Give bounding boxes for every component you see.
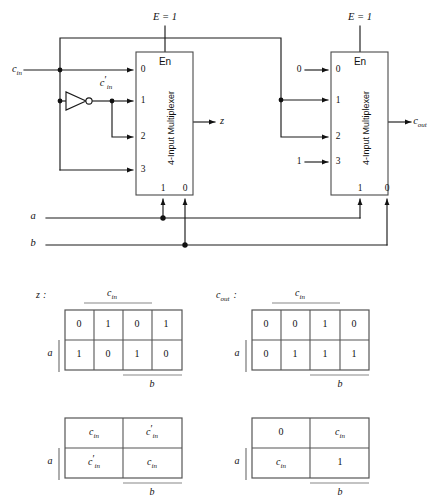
mux-left[interactable]: En 0 1 2 3 4-Input Multiplexer 1 0 — [136, 52, 193, 195]
label-a-bus: a — [30, 210, 35, 221]
mux-right-port-0: 0 — [336, 64, 341, 74]
junction-dot-a — [160, 215, 165, 220]
kmap-cout-reduced: 0 cin cin 1 a b — [235, 418, 370, 497]
mux-left-select-0: 0 — [183, 183, 188, 193]
label-b-bus: b — [30, 237, 35, 248]
mux-left-name: 4-Input Multiplexer — [166, 91, 176, 165]
junction-dot-right-bus — [279, 98, 284, 103]
kmap-cout-cell-r1c0: 0 — [264, 348, 269, 359]
circuit-and-kmap-figure: En 0 1 2 3 4-Input Multiplexer 1 0 En 0 … — [0, 0, 443, 501]
kmap-cout-values: cout: cin 0 0 1 0 0 1 1 1 a b — [216, 287, 369, 389]
mux-right-port-3: 3 — [336, 156, 341, 166]
kmap-z-cell-r1c3: 0 — [164, 348, 169, 359]
figure-root: En 0 1 2 3 4-Input Multiplexer 1 0 En 0 … — [0, 0, 443, 501]
kmap-cout-bottom-label: b — [338, 378, 343, 389]
mux-left-select-1: 1 — [161, 183, 166, 193]
kmap-cout-cell-r1c1: 1 — [293, 348, 298, 359]
kmap-z-reduced-left-label: a — [48, 455, 53, 466]
kmap-z-reduced-bottom-label: b — [150, 486, 155, 497]
enable-label-right: E = 1 — [347, 11, 372, 22]
kmap-z-cell-r0c0: 0 — [77, 318, 82, 329]
kmap-z-cell-r1c0: 1 — [77, 348, 82, 359]
label-cin: cin — [12, 63, 23, 76]
junction-dot-b — [182, 242, 187, 247]
kmap-z-cell-r0c3: 1 — [164, 318, 169, 329]
cin-to-port2-right — [281, 100, 328, 137]
junction-dot-inverter-in — [58, 99, 63, 104]
kmap-z-left-label: a — [48, 347, 53, 358]
mux-right[interactable]: En 0 1 2 3 4-Input Multiplexer 1 0 — [331, 52, 390, 195]
kmap-z-top-label: cin — [107, 287, 117, 300]
mux-right-enable-label: En — [354, 56, 366, 67]
kmap-z-cell-r1c2: 1 — [135, 348, 140, 359]
kmap-cout-title: cout: — [216, 289, 237, 302]
kmap-z-bottom-label: b — [150, 378, 155, 389]
mux-left-port-2: 2 — [141, 131, 146, 141]
kmap-cout-reduced-left-label: a — [235, 455, 240, 466]
kmap-cout-reduced-cell-r0c0: 0 — [279, 426, 284, 437]
mux-right-name: 4-Input Multiplexer — [361, 91, 371, 165]
kmap-cout-cell-r0c3: 0 — [352, 318, 357, 329]
kmap-cout-cell-r0c2: 1 — [323, 318, 328, 329]
mux-right-port-1: 1 — [336, 95, 341, 105]
enable-label-left: E = 1 — [152, 11, 177, 22]
mux-right-port-2: 2 — [336, 131, 341, 141]
kmap-cout-left-label: a — [235, 347, 240, 358]
kmap-z-title: z: — [35, 289, 46, 300]
label-z-output: z — [219, 115, 224, 126]
label-cout-output: cout — [413, 115, 428, 128]
mux-right-select-1: 1 — [358, 183, 363, 193]
junction-dot-cin-top — [58, 68, 63, 73]
label-const-1-right: 1 — [297, 156, 302, 166]
kmap-z-reduced: cin c′in c′in cin a b — [48, 418, 183, 497]
kmap-z-cell-r0c1: 1 — [106, 318, 111, 329]
kmap-cout-top-label: cin — [295, 287, 305, 300]
mux-left-port-0: 0 — [141, 64, 146, 74]
mux-left-port-3: 3 — [141, 164, 146, 174]
kmap-z-values: z: cin 0 1 0 1 1 0 1 0 a b — [35, 287, 182, 389]
kmap-z-cell-r1c1: 0 — [106, 348, 111, 359]
inverter-gate — [66, 92, 92, 110]
junction-dot-cinnot — [110, 99, 115, 104]
mux-right-select-0: 0 — [385, 183, 390, 193]
inverter-bubble-icon — [86, 98, 92, 104]
kmap-z-cell-r0c2: 0 — [135, 318, 140, 329]
label-const-0-right: 0 — [297, 64, 302, 74]
kmap-cout-cell-r1c2: 1 — [323, 348, 328, 359]
kmap-cout-reduced-bottom-label: b — [338, 486, 343, 497]
cinnot-to-port2 — [112, 101, 133, 137]
kmap-cout-cell-r0c0: 0 — [264, 318, 269, 329]
kmap-cout-reduced-cell-r1c1: 1 — [338, 456, 343, 467]
kmap-cout-cell-r1c3: 1 — [352, 348, 357, 359]
mux-left-enable-label: En — [159, 56, 171, 67]
inverter-triangle-icon — [66, 92, 86, 110]
kmap-cout-cell-r0c1: 0 — [293, 318, 298, 329]
mux-left-port-1: 1 — [141, 95, 146, 105]
label-cin-not: c′in — [100, 74, 113, 90]
